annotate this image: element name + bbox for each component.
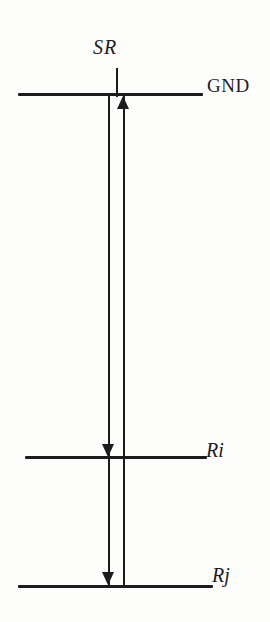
sr-label: SR [93, 37, 117, 57]
level-transition-diagram: SR GND Ri Rj [0, 0, 270, 622]
down-arrowhead-at-rj-icon [102, 572, 114, 585]
rj-label: Rj [212, 565, 230, 585]
ri-level-line [25, 456, 207, 459]
upward-transition-line [123, 96, 125, 588]
ri-label: Ri [206, 440, 224, 460]
up-arrowhead-at-gnd-icon [117, 96, 129, 109]
gnd-label: GND [207, 76, 250, 95]
rj-level-line [18, 585, 213, 588]
gnd-level-line [18, 93, 203, 96]
downward-transition-line [108, 96, 110, 585]
